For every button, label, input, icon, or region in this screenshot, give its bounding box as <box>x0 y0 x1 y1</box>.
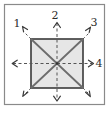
direction-label-4: 4 <box>96 57 103 70</box>
figure-container: 1 2 3 4 <box>0 0 111 113</box>
direction-label-3: 3 <box>91 16 98 29</box>
direction-label-2: 2 <box>52 9 59 22</box>
center-point <box>56 62 59 65</box>
direction-label-1: 1 <box>14 17 21 30</box>
direction-diagram: 1 2 3 4 <box>0 0 111 113</box>
